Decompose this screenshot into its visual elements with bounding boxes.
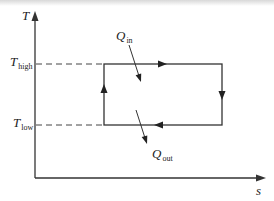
q-in-subscript: in [126,36,132,45]
diagram-graphics [0,0,274,201]
cycle-rectangle [101,61,226,129]
x-axis-label-text: s [256,183,261,198]
t-high-symbol: T [10,54,17,69]
x-axis [35,175,266,182]
y-axis [32,11,39,178]
t-low-label: Tlow [13,116,33,129]
q-out-label: Qout [152,147,173,160]
y-axis-arrowhead [32,11,39,21]
q-out-subscript: out [162,154,172,163]
ts-diagram: T s Thigh Tlow Qin Qout [0,0,274,201]
t-high-label: Thigh [10,55,32,68]
top-edge-arrowhead [158,61,167,68]
q-out-arrow [136,110,147,144]
right-edge-arrowhead [219,91,226,100]
y-axis-label-text: T [22,8,29,23]
left-edge-arrowhead [101,84,108,93]
q-in-label: Qin [116,29,133,42]
t-low-subscript: low [21,123,33,132]
y-axis-label: T [22,9,29,22]
x-axis-label: s [256,184,261,197]
t-low-symbol: T [13,115,20,130]
q-out-symbol: Q [152,146,161,161]
t-high-subscript: high [18,62,32,71]
q-in-symbol: Q [116,28,125,43]
bottom-edge-arrowhead [154,122,163,129]
x-axis-arrowhead [256,175,266,182]
